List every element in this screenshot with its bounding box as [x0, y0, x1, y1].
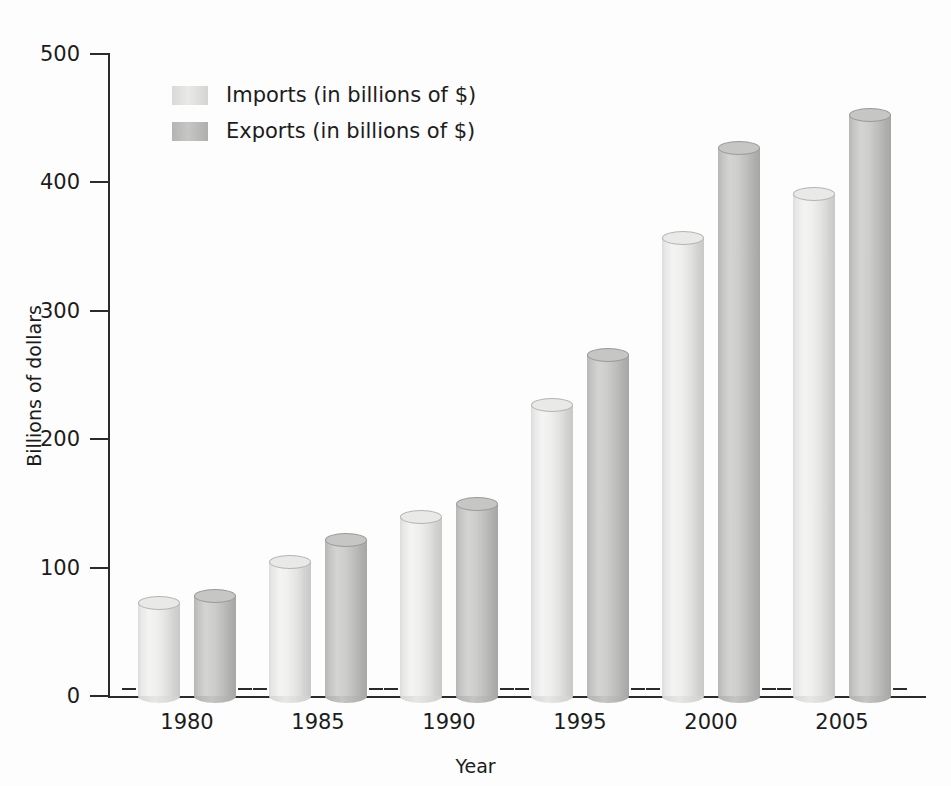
bar-body [718, 148, 760, 696]
bar-body [269, 562, 311, 696]
bar-exports-1990 [456, 504, 498, 696]
x-axis-title: Year [0, 755, 951, 777]
bar-top-ellipse [325, 533, 367, 547]
legend-item-exports: Exports (in billions of $) [172, 116, 476, 146]
bar-body [849, 115, 891, 696]
legend-item-imports: Imports (in billions of $) [172, 80, 476, 110]
x-tick-mark [515, 688, 529, 690]
x-tick-label-2000: 2000 [684, 712, 737, 733]
bar-body [531, 405, 573, 696]
bar-top-ellipse [400, 510, 442, 524]
bar-top-ellipse [531, 398, 573, 412]
bar-top-ellipse [269, 555, 311, 569]
x-tick-label-2005: 2005 [815, 712, 868, 733]
bar-imports-1990 [400, 517, 442, 696]
bar-chart: 500 400 300 200 100 0 Billions of dollar… [0, 0, 951, 786]
bar-exports-1995 [587, 355, 629, 696]
bar-body [793, 194, 835, 696]
bar-exports-1980 [194, 596, 236, 696]
x-tick-mark [369, 688, 383, 690]
bar-exports-2000 [718, 148, 760, 696]
x-tick-label-1985: 1985 [291, 712, 344, 733]
bar-body [194, 596, 236, 696]
x-tick-mark [631, 688, 645, 690]
legend-swatch-exports [172, 122, 208, 141]
x-tick-mark [646, 688, 660, 690]
x-tick-label-1990: 1990 [422, 712, 475, 733]
legend-label-exports: Exports (in billions of $) [226, 121, 475, 142]
x-tick-mark [384, 688, 398, 690]
legend-label-imports: Imports (in billions of $) [226, 85, 476, 106]
x-tick-mark [500, 688, 514, 690]
bar-imports-1985 [269, 562, 311, 696]
bar-top-ellipse [662, 231, 704, 245]
bar-imports-2000 [662, 238, 704, 696]
bar-top-ellipse [456, 497, 498, 511]
bar-body [587, 355, 629, 696]
x-tick-label-1980: 1980 [160, 712, 213, 733]
x-tick-mark [762, 688, 776, 690]
bar-exports-2005 [849, 115, 891, 696]
bar-body [456, 504, 498, 696]
x-tick-mark [238, 688, 252, 690]
x-tick-mark [253, 688, 267, 690]
legend: Imports (in billions of $) Exports (in b… [172, 80, 476, 152]
bar-imports-1995 [531, 405, 573, 696]
legend-swatch-imports [172, 86, 208, 105]
bar-top-ellipse [793, 187, 835, 201]
x-tick-mark [777, 688, 791, 690]
bar-body [400, 517, 442, 696]
bar-body [325, 540, 367, 696]
bar-imports-1980 [138, 603, 180, 696]
bar-top-ellipse [138, 596, 180, 610]
x-tick-mark [893, 688, 907, 690]
bar-body [138, 603, 180, 696]
bar-imports-2005 [793, 194, 835, 696]
bar-top-ellipse [587, 348, 629, 362]
x-tick-mark [122, 688, 136, 690]
x-tick-label-1995: 1995 [553, 712, 606, 733]
bar-body [662, 238, 704, 696]
bar-top-ellipse [849, 108, 891, 122]
bar-top-ellipse [718, 141, 760, 155]
bar-exports-1985 [325, 540, 367, 696]
bar-top-ellipse [194, 589, 236, 603]
